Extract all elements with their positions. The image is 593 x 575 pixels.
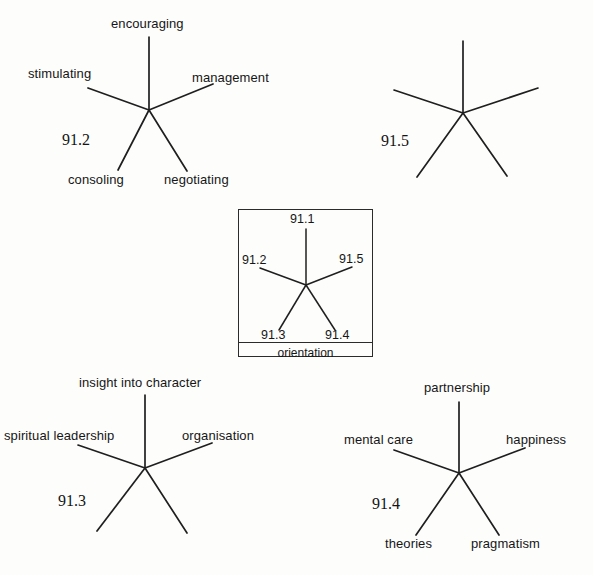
legend-label-91-2: 91.2 bbox=[242, 254, 266, 267]
legend-ray-91-3 bbox=[279, 285, 306, 330]
legend-ray-91-5 bbox=[306, 267, 352, 285]
legend-title-text: orientation bbox=[277, 346, 333, 360]
star-rays-bottom-right bbox=[320, 365, 593, 575]
panel-id-label: 91.2 bbox=[62, 131, 90, 148]
star-panel-bottom-left: insight into character spiritual leaders… bbox=[0, 365, 300, 575]
panel-id-label: 91.5 bbox=[381, 132, 409, 149]
ray-axis-91-2 bbox=[88, 88, 149, 110]
legend-ray-91-4 bbox=[306, 285, 335, 330]
ray-axis-91-4 bbox=[145, 468, 187, 533]
ray-label-lower-left: consoling bbox=[68, 173, 124, 187]
legend-box: 91.1 91.2 91.5 91.3 91.4 orientation bbox=[238, 209, 373, 357]
ray-axis-91-4 bbox=[459, 473, 499, 535]
figure-canvas: encouraging stimulating management conso… bbox=[0, 0, 593, 575]
panel-id-label: 91.4 bbox=[372, 495, 400, 512]
legend-label-91-4: 91.4 bbox=[325, 329, 349, 342]
star-rays-top-right bbox=[360, 0, 593, 200]
ray-axis-91-2 bbox=[78, 445, 145, 468]
ray-axis-91-2 bbox=[394, 450, 459, 473]
ray-label-lower-right: pragmatism bbox=[471, 537, 540, 551]
ray-label-upper-right: management bbox=[192, 71, 269, 85]
legend-label-91-5: 91.5 bbox=[339, 253, 363, 266]
star-rays-bottom-left bbox=[0, 365, 300, 575]
ray-label-upper-left: mental care bbox=[344, 433, 413, 447]
ray-label-upper-right: happiness bbox=[506, 433, 566, 447]
ray-axis-91-4 bbox=[463, 113, 507, 176]
legend-star-rays bbox=[239, 210, 374, 358]
legend-label-91-3: 91.3 bbox=[261, 329, 285, 342]
legend-label-91-1: 91.1 bbox=[290, 213, 314, 226]
ray-axis-91-5 bbox=[459, 448, 525, 473]
star-panel-bottom-right: partnership mental care happiness theori… bbox=[320, 365, 593, 575]
ray-axis-91-2 bbox=[394, 90, 463, 113]
ray-axis-91-3 bbox=[416, 473, 459, 535]
ray-label-upper-right: organisation bbox=[182, 429, 254, 443]
star-panel-top-right: 91.5 bbox=[360, 0, 593, 200]
ray-axis-91-5 bbox=[149, 84, 213, 110]
ray-label-lower-left: theories bbox=[385, 537, 432, 551]
ray-axis-91-5 bbox=[463, 88, 538, 113]
ray-label-top: insight into character bbox=[79, 376, 201, 390]
ray-axis-91-4 bbox=[149, 110, 187, 171]
legend-title-bar: orientation bbox=[239, 342, 372, 356]
ray-axis-91-5 bbox=[145, 443, 212, 468]
star-panel-top-left: encouraging stimulating management conso… bbox=[0, 0, 300, 200]
legend-ray-91-2 bbox=[260, 268, 306, 285]
panel-id-label: 91.3 bbox=[58, 492, 86, 509]
ray-label-upper-left: spiritual leadership bbox=[4, 429, 114, 443]
ray-label-top: partnership bbox=[424, 381, 490, 395]
ray-axis-91-3 bbox=[97, 468, 145, 531]
ray-label-lower-right: negotiating bbox=[164, 173, 229, 187]
ray-axis-91-3 bbox=[417, 113, 463, 177]
ray-label-top: encouraging bbox=[111, 17, 184, 31]
ray-axis-91-3 bbox=[118, 110, 149, 170]
ray-label-upper-left: stimulating bbox=[28, 67, 91, 81]
